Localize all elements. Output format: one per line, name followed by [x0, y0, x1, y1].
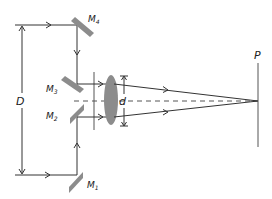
- mirror-m3-label: M3: [46, 84, 58, 95]
- inner-separation-label: d: [119, 95, 127, 108]
- upper-output-beam: [77, 81, 108, 87]
- lower-output-beam: [77, 114, 108, 120]
- upper-vertical-beam: [74, 25, 80, 84]
- top-incoming-beam: [15, 22, 77, 28]
- outer-separation-dimension: D: [16, 26, 25, 174]
- bottom-incoming-beam: [15, 172, 77, 178]
- mirror-m2-label: M2: [46, 111, 58, 122]
- converging-lens: [104, 75, 118, 125]
- lower-vertical-beam: [74, 117, 80, 175]
- inner-separation-dimension: d: [119, 76, 128, 126]
- lower-converging-ray: [114, 101, 258, 117]
- mirror-m4-label: M4: [88, 14, 100, 25]
- mirror-m1-label: M1: [87, 180, 99, 191]
- interferometer-diagram: D M4 M3 M2 M1 d: [0, 0, 272, 199]
- upper-converging-ray: [114, 84, 258, 101]
- screen-label: P: [254, 49, 261, 62]
- outer-separation-label: D: [16, 95, 24, 108]
